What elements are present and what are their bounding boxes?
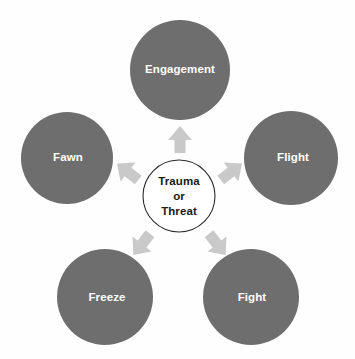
center-node-label-line-1: Trauma bbox=[158, 175, 200, 187]
node-engagement-label: Engagement bbox=[145, 63, 215, 75]
diagram-canvas: Engagement Flight Fawn Freeze Fight bbox=[0, 0, 355, 359]
trauma-response-diagram: Engagement Flight Fawn Freeze Fight bbox=[0, 0, 355, 359]
center-node[interactable]: Trauma or Threat bbox=[143, 160, 215, 232]
arrow-to-fawn bbox=[110, 154, 146, 190]
center-node-label-line-3: Threat bbox=[161, 205, 197, 217]
node-fight[interactable]: Fight bbox=[203, 249, 299, 345]
node-flight-label: Flight bbox=[277, 151, 309, 163]
node-fawn[interactable]: Fawn bbox=[21, 112, 113, 204]
node-engagement[interactable]: Engagement bbox=[130, 20, 230, 120]
node-freeze-label: Freeze bbox=[88, 291, 125, 303]
node-fawn-label: Fawn bbox=[53, 151, 83, 163]
arrow-to-flight bbox=[213, 154, 249, 190]
arrow-to-engagement bbox=[168, 126, 192, 153]
center-node-label-line-2: or bbox=[173, 190, 185, 202]
node-flight[interactable]: Flight bbox=[244, 111, 338, 205]
node-fight-label: Fight bbox=[238, 291, 267, 303]
node-freeze[interactable]: Freeze bbox=[57, 249, 153, 345]
